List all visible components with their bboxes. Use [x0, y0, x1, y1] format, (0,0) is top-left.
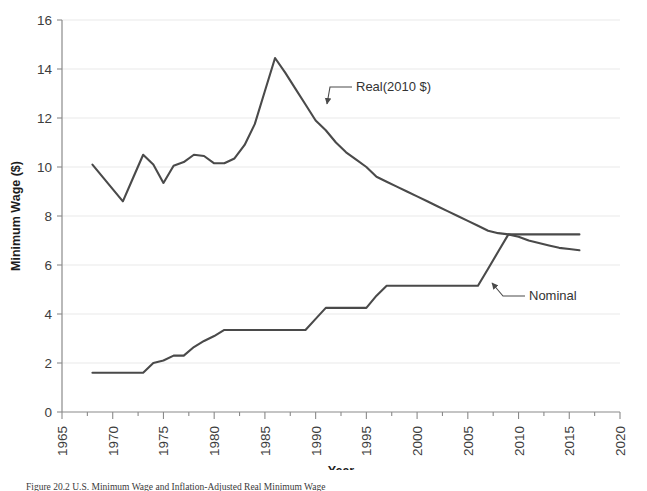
x-tick-label: 2010	[512, 426, 527, 456]
y-tick-label: 14	[37, 62, 53, 77]
x-tick-label: 2000	[410, 426, 425, 456]
annotation-label-real-2010: Real(2010 $)	[356, 79, 431, 94]
x-tick-label: 1965	[55, 426, 70, 456]
figure-caption: Figure 20.2 U.S. Minimum Wage and Inflat…	[26, 482, 626, 491]
x-tick-label: 1985	[258, 426, 273, 456]
minimum-wage-line-chart: 0246810121416196519701975198019851990199…	[0, 0, 647, 470]
y-tick-label: 16	[37, 13, 52, 28]
x-tick-label: 1975	[156, 426, 171, 456]
x-tick-label: 1995	[359, 426, 374, 456]
x-tick-label: 2015	[562, 426, 577, 456]
y-tick-label: 12	[37, 111, 52, 126]
y-tick-label: 2	[44, 356, 52, 371]
x-axis-title: Year	[328, 464, 355, 470]
y-tick-label: 0	[44, 405, 52, 420]
y-tick-label: 10	[37, 160, 52, 175]
x-tick-label: 2020	[613, 426, 628, 456]
y-tick-label: 6	[44, 258, 52, 273]
y-tick-label: 4	[44, 307, 52, 322]
figure-container: 0246810121416196519701975198019851990199…	[0, 0, 647, 491]
y-axis-title: Minimum Wage ($)	[9, 161, 23, 271]
x-tick-label: 1980	[207, 426, 222, 456]
x-tick-label: 2005	[461, 426, 476, 456]
y-tick-label: 8	[44, 209, 52, 224]
x-tick-label: 1990	[309, 426, 324, 456]
annotation-label-nominal: Nominal	[529, 288, 577, 303]
annotation-leader-real-2010	[327, 87, 352, 104]
series-line-nominal	[92, 234, 579, 372]
x-tick-label: 1970	[106, 426, 121, 456]
annotation-leader-nominal	[492, 283, 525, 296]
